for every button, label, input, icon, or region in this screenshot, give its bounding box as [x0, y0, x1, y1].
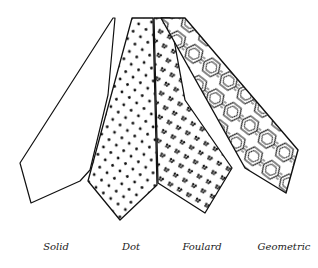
- label-geometric: Geometric: [258, 241, 311, 252]
- label-foulard: Foulard: [182, 241, 221, 252]
- tie-illustration: Solid Dot Foulard Geometric: [0, 0, 318, 268]
- label-dot: Dot: [122, 241, 140, 252]
- ties-drawing: [0, 0, 318, 268]
- label-solid: Solid: [43, 241, 69, 252]
